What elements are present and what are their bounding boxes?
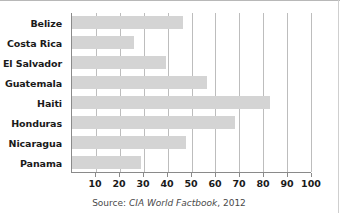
bar-row: [72, 93, 311, 113]
tick-label: 70: [232, 178, 245, 189]
tick-label: 60: [208, 178, 221, 189]
bar-chart: BelizeCosta RicaEl SalvadorGuatemalaHait…: [0, 6, 338, 186]
bar-row: [72, 33, 311, 53]
category-label: Costa Rica: [0, 33, 66, 53]
tick-mark: [191, 173, 192, 177]
tick-label: 10: [88, 178, 101, 189]
tick-label: 20: [112, 178, 125, 189]
figure-top-border: [0, 0, 340, 1]
bar: [72, 136, 186, 149]
source-title: CIA World Factbook: [129, 198, 217, 208]
bar: [72, 16, 183, 29]
tick-mark: [263, 173, 264, 177]
category-label: Belize: [0, 13, 66, 33]
source-caption: Source: CIA World Factbook, 2012: [0, 198, 338, 208]
bar: [72, 56, 166, 69]
category-label: El Salvador: [0, 53, 66, 73]
bar-series: [72, 13, 311, 172]
bar-row: [72, 73, 311, 93]
source-prefix: Source:: [92, 198, 129, 208]
bar-row: [72, 132, 311, 152]
category-label: Honduras: [0, 113, 66, 133]
bar: [72, 96, 270, 109]
tick-mark: [215, 173, 216, 177]
tick-mark: [239, 173, 240, 177]
category-label: Nicaragua: [0, 133, 66, 153]
value-axis-ticks: 102030405060708090100: [71, 173, 311, 178]
tick-label: 50: [184, 178, 197, 189]
plot-area: [71, 13, 311, 173]
category-label: Panama: [0, 153, 66, 173]
tick-label: 80: [256, 178, 269, 189]
bar-row: [72, 53, 311, 73]
category-label: Haiti: [0, 93, 66, 113]
bar: [72, 116, 235, 129]
bar-row: [72, 13, 311, 33]
bar: [72, 76, 207, 89]
category-label: Guatemala: [0, 73, 66, 93]
gridline: [311, 13, 312, 172]
category-axis-labels: BelizeCosta RicaEl SalvadorGuatemalaHait…: [0, 13, 66, 173]
chart-figure: BelizeCosta RicaEl SalvadorGuatemalaHait…: [0, 0, 350, 213]
tick-label: 30: [136, 178, 149, 189]
figure-right-border: [338, 0, 339, 213]
tick-label: 100: [301, 178, 321, 189]
bar-row: [72, 112, 311, 132]
tick-mark: [119, 173, 120, 177]
tick-mark: [311, 173, 312, 177]
bar: [72, 36, 134, 49]
tick-mark: [167, 173, 168, 177]
bar: [72, 156, 141, 169]
source-suffix: , 2012: [217, 198, 246, 208]
bar-row: [72, 152, 311, 172]
tick-label: 40: [160, 178, 173, 189]
tick-mark: [143, 173, 144, 177]
tick-mark: [95, 173, 96, 177]
tick-label: 90: [280, 178, 293, 189]
tick-mark: [287, 173, 288, 177]
